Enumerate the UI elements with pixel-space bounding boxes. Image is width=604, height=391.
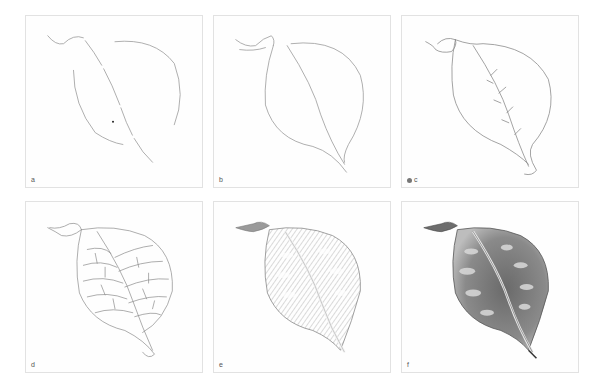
- panel-a: a: [25, 15, 203, 188]
- panel-b: b: [213, 15, 391, 188]
- panel-label-e: e: [219, 361, 223, 368]
- marker-dot-icon: [407, 178, 412, 183]
- panel-d: d: [25, 201, 203, 373]
- leaf-sketch-c: [402, 16, 578, 187]
- panel-label-b: b: [219, 176, 223, 183]
- leaf-sketch-a: [26, 16, 202, 187]
- panel-label-f: f: [407, 361, 409, 368]
- panel-f: f: [401, 201, 579, 373]
- leaf-sketch-d: [26, 202, 202, 372]
- panel-label-c-text: c: [414, 176, 418, 183]
- panel-e: e: [213, 201, 391, 373]
- panel-label-d: d: [31, 361, 35, 368]
- leaf-sketch-f: [402, 202, 578, 372]
- leaf-sketch-b: [214, 16, 390, 187]
- panel-c: c: [401, 15, 579, 188]
- panel-label-c: c: [407, 176, 418, 183]
- panel-label-a: a: [31, 176, 35, 183]
- leaf-sketch-e: [214, 202, 390, 372]
